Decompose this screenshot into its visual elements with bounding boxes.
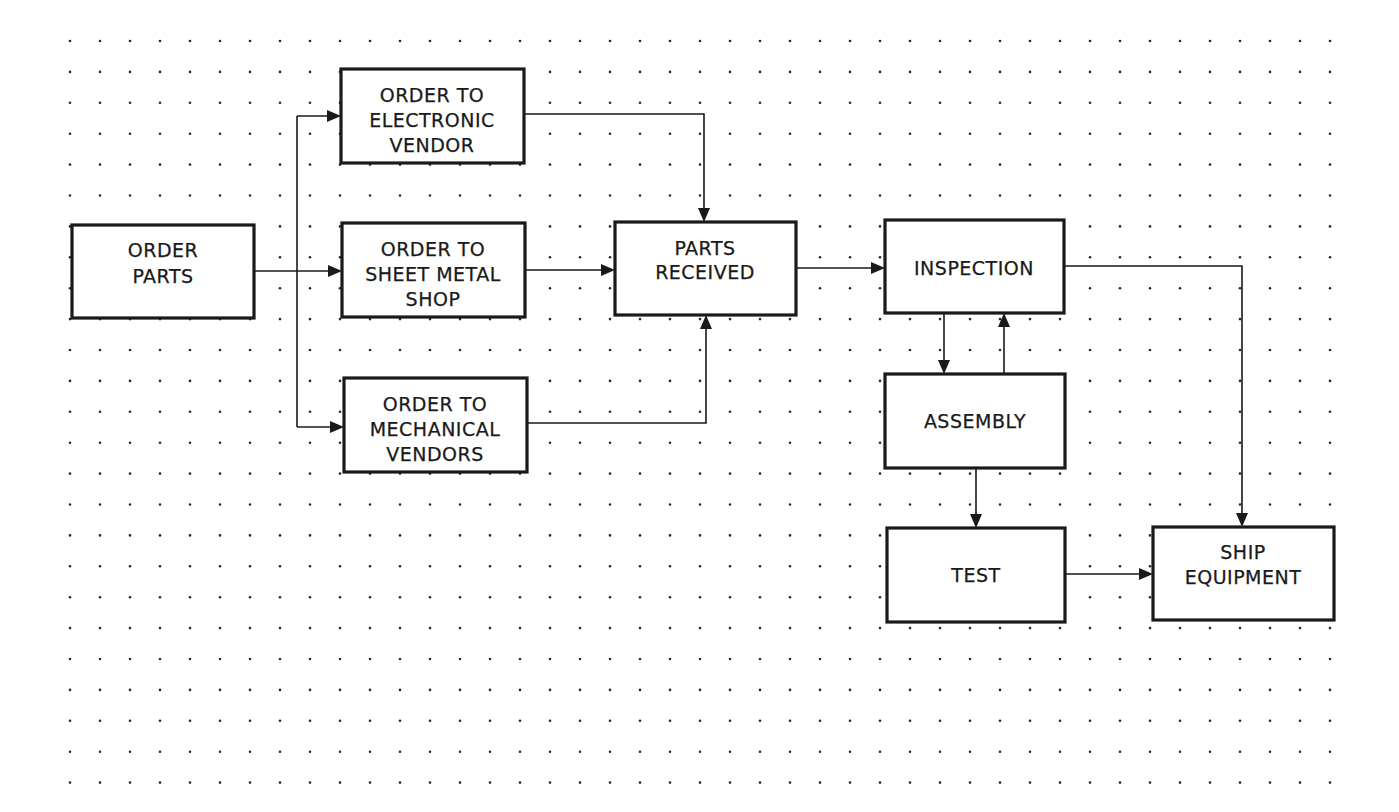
grid-dot <box>729 472 732 475</box>
grid-dot <box>1299 349 1302 352</box>
grid-dot <box>1329 689 1332 692</box>
grid-dot <box>219 565 222 568</box>
grid-dot <box>819 658 822 661</box>
grid-dot <box>399 349 402 352</box>
grid-dot <box>99 781 102 784</box>
grid-dot <box>609 534 612 537</box>
grid-dot <box>969 658 972 661</box>
grid-dot <box>639 627 642 630</box>
grid-dot <box>639 596 642 599</box>
grid-dot <box>609 658 612 661</box>
grid-dot <box>549 750 552 753</box>
grid-dot <box>279 689 282 692</box>
grid-dot <box>819 102 822 105</box>
grid-dot <box>849 256 852 259</box>
grid-dot <box>879 596 882 599</box>
grid-dot <box>369 534 372 537</box>
grid-dot <box>879 689 882 692</box>
grid-dot <box>99 472 102 475</box>
grid-dot <box>1269 40 1272 43</box>
arrowhead-icon <box>700 315 712 329</box>
grid-dot <box>1299 256 1302 259</box>
grid-dot <box>1029 194 1032 197</box>
grid-dot <box>459 349 462 352</box>
grid-dot <box>369 349 372 352</box>
grid-dot <box>339 720 342 723</box>
grid-dot <box>639 132 642 135</box>
grid-dot <box>489 349 492 352</box>
grid-dot <box>1089 689 1092 692</box>
grid-dot <box>519 565 522 568</box>
grid-dot <box>759 565 762 568</box>
grid-dot <box>1119 750 1122 753</box>
grid-dot <box>279 750 282 753</box>
grid-dot <box>1149 720 1152 723</box>
grid-dot <box>1089 102 1092 105</box>
grid-dot <box>1209 689 1212 692</box>
grid-dot <box>129 102 132 105</box>
grid-dot <box>849 627 852 630</box>
grid-dot <box>429 781 432 784</box>
grid-dot <box>819 194 822 197</box>
grid-dot <box>1089 40 1092 43</box>
grid-dot <box>849 349 852 352</box>
grid-dot <box>549 225 552 228</box>
grid-dot <box>639 503 642 506</box>
grid-dot <box>999 720 1002 723</box>
grid-dot <box>519 503 522 506</box>
grid-dot <box>369 689 372 692</box>
grid-dot <box>99 40 102 43</box>
grid-dot <box>189 689 192 692</box>
grid-dot <box>69 40 72 43</box>
grid-dot <box>789 40 792 43</box>
grid-dot <box>1119 194 1122 197</box>
grid-dot <box>669 380 672 383</box>
grid-dot <box>489 658 492 661</box>
grid-dot <box>789 318 792 321</box>
grid-dot <box>219 349 222 352</box>
grid-dot <box>249 349 252 352</box>
grid-dot <box>1209 132 1212 135</box>
grid-dot <box>1209 720 1212 723</box>
grid-dot <box>549 194 552 197</box>
grid-dot <box>699 781 702 784</box>
grid-dot <box>819 750 822 753</box>
grid-dot <box>219 380 222 383</box>
grid-dot <box>939 71 942 74</box>
grid-dot <box>579 194 582 197</box>
grid-dot <box>939 102 942 105</box>
grid-dot <box>1269 318 1272 321</box>
grid-dot <box>279 658 282 661</box>
arrowhead-icon <box>327 110 341 122</box>
grid-dot <box>1029 720 1032 723</box>
grid-dot <box>609 225 612 228</box>
grid-dot <box>909 781 912 784</box>
grid-dot <box>1179 102 1182 105</box>
grid-dot <box>939 40 942 43</box>
grid-dot <box>939 349 942 352</box>
node-label-line: ELECTRONIC <box>369 109 495 131</box>
grid-dot <box>459 40 462 43</box>
grid-dot <box>309 596 312 599</box>
grid-dot <box>249 503 252 506</box>
grid-dot <box>849 503 852 506</box>
grid-dot <box>399 565 402 568</box>
grid-dot <box>459 565 462 568</box>
grid-dot <box>399 720 402 723</box>
node-label-line: SHIP <box>1220 541 1265 563</box>
grid-dot <box>699 627 702 630</box>
grid-dot <box>579 627 582 630</box>
arrowhead-icon <box>970 514 982 528</box>
grid-dot <box>759 720 762 723</box>
grid-dot <box>189 163 192 166</box>
grid-dot <box>189 503 192 506</box>
grid-dot <box>189 781 192 784</box>
grid-dot <box>849 194 852 197</box>
grid-dot <box>369 503 372 506</box>
grid-dot <box>279 720 282 723</box>
grid-dot <box>1119 658 1122 661</box>
grid-dot <box>219 40 222 43</box>
node-order-mechanical-vendors: ORDER TO MECHANICAL VENDORS <box>344 378 527 472</box>
grid-dot <box>159 781 162 784</box>
grid-dot <box>1179 349 1182 352</box>
